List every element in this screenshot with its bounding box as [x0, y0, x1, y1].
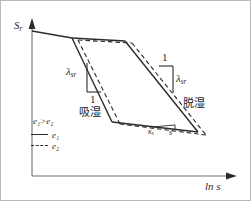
- right-slope-lambda-label: λsr: [176, 73, 186, 86]
- legend-label-e1: e₁: [52, 130, 59, 140]
- bottom-s-label: s: [169, 129, 172, 137]
- legend-swatch-dashed-icon: [31, 145, 48, 146]
- legend-item-e1: e₁: [31, 129, 91, 140]
- x-axis-label: ln s: [205, 181, 221, 192]
- curve-e2-drying-branch: [132, 43, 206, 135]
- curve-e1-initial-segment: [32, 31, 72, 38]
- left-slope-triangle: [87, 63, 101, 92]
- legend-title: e₁>e₂: [33, 116, 91, 126]
- x-axis-arrow-icon: [226, 173, 237, 180]
- legend-swatch-solid-icon: [31, 134, 48, 135]
- legend-label-e2: e₂: [52, 141, 59, 151]
- legend: e₁>e₂ e₁ e₂: [31, 116, 91, 151]
- right-slope-unit-label: 1: [162, 52, 168, 63]
- legend-item-e2: e₂: [31, 140, 91, 151]
- plot-canvas: [0, 0, 252, 202]
- swcc-hysteresis-figure: Sr ln s λsr 1 吸湿 1 λsr 脱湿 κs s e₁>e₂ e₁ …: [0, 0, 252, 202]
- axis-group: [29, 18, 237, 179]
- curve-e2: [78, 40, 206, 135]
- left-slope-lambda-label: λsr: [66, 66, 76, 79]
- y-axis-arrow-icon: [29, 18, 36, 29]
- bottom-wedge-upper-leg: [152, 125, 175, 127]
- left-slope-unit-label: 1: [90, 94, 96, 105]
- bottom-kappa-label: κs: [148, 128, 154, 136]
- drying-branch-label: 脱湿: [183, 98, 205, 109]
- y-axis-label: Sr: [14, 20, 22, 33]
